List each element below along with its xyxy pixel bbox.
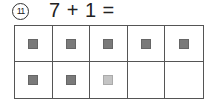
counter-square-icon [66, 39, 76, 49]
ten-frame-cell [165, 26, 203, 62]
ten-frame [14, 25, 204, 99]
ten-frame-cell [15, 62, 53, 98]
ten-frame-cell [128, 26, 166, 62]
ten-frame-cell [53, 62, 91, 98]
counter-square-icon [28, 75, 38, 85]
problem-number: 11 [12, 3, 29, 20]
counter-square-icon [28, 39, 38, 49]
ten-frame-cell [90, 26, 128, 62]
ten-frame-cell [90, 62, 128, 98]
counter-square-icon [103, 75, 113, 85]
counter-square-icon [66, 75, 76, 85]
ten-frame-cell [15, 26, 53, 62]
equation: 7 + 1 = [49, 0, 115, 22]
counter-square-icon [103, 39, 113, 49]
ten-frame-cell [128, 62, 166, 98]
counter-square-icon [179, 39, 189, 49]
counter-square-icon [141, 39, 151, 49]
ten-frame-cell [53, 26, 91, 62]
ten-frame-cell [165, 62, 203, 98]
